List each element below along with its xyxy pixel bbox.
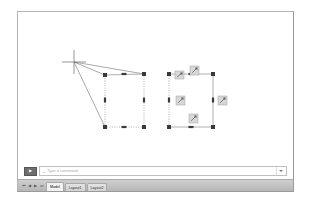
command-bar: ▶ ⌄ [18,163,293,179]
grip-edit-icon-right-glyph-tip [223,97,225,99]
drawing-canvas[interactable] [18,12,293,163]
selected-quad-left-corner-grip-2[interactable] [142,125,146,129]
selected-quad-left-corner-grip-3[interactable] [103,125,107,129]
selected-quad-left-corner-grip-1[interactable] [142,72,146,76]
caret-down-glyph [279,170,283,172]
layout-next-button[interactable]: ▶ [33,183,38,189]
grip-edit-icon-topleft-glyph-tip [180,72,182,74]
command-input[interactable] [47,167,276,175]
grip-edit-icon-bottom-glyph-tip [194,115,196,117]
application-window: ▶ ⌄ ⏮◀▶⏭ ModelLayout1Layout2 [17,11,294,192]
selected-rect-right-corner-grip-3[interactable] [167,125,171,129]
selected-rect-right-corner-grip-2[interactable] [211,125,215,129]
grip-edit-icon-right[interactable] [218,96,227,105]
selected-rect-right-mid-grip-3[interactable] [168,98,170,103]
selected-quad-left-corner-grip-0[interactable] [103,73,107,77]
selected-quad-left-mid-grip-2[interactable] [122,126,127,128]
layout-prev-button[interactable]: ◀ [27,183,32,189]
layout-tab-model[interactable]: Model [46,182,64,191]
selected-rect-right-mid-grip-1[interactable] [212,98,214,103]
selection-ray-0 [74,62,105,75]
command-prompt-icon[interactable]: ▶ [24,167,37,176]
layout-nav-buttons: ⏮◀▶⏭ [21,181,46,191]
layout-tab-layout1[interactable]: Layout1 [65,183,86,191]
selection-ray-1 [74,62,144,74]
grip-edit-icon-left-glyph-tip [181,97,183,99]
selection-ray-2 [74,62,105,127]
layout-tab-layout2[interactable]: Layout2 [87,183,108,191]
grip-edit-icon-top[interactable] [190,66,199,75]
grip-edit-icon-bottom[interactable] [189,114,198,123]
crosshair-cursor [62,50,86,74]
selected-quad-left-mid-grip-1[interactable] [143,98,145,103]
layout-tab-bar: ModelLayout1Layout2 [46,180,108,191]
selected-rect-right-mid-grip-2[interactable] [189,126,194,128]
selected-rect-right-corner-grip-0[interactable] [167,72,171,76]
selected-quad-left-mid-grip-3[interactable] [104,98,106,103]
command-input-wrap[interactable]: ⌄ [39,166,287,176]
grip-edit-icon-topleft[interactable] [175,71,184,79]
grip-edit-icon-top-glyph-tip [195,67,197,69]
layout-last-button[interactable]: ⏭ [39,183,44,189]
drawing-canvas-svg [18,12,293,163]
grip-edit-icon-left[interactable] [176,96,185,105]
status-strip: ⏮◀▶⏭ ModelLayout1Layout2 [18,179,293,191]
selected-quad-left-mid-grip-0[interactable] [122,73,127,75]
layout-first-button[interactable]: ⏮ [21,183,26,189]
chevron-down-icon[interactable] [276,167,285,175]
selected-rect-right-corner-grip-1[interactable] [211,72,215,76]
command-caret-icon: ⌄ [40,167,47,175]
